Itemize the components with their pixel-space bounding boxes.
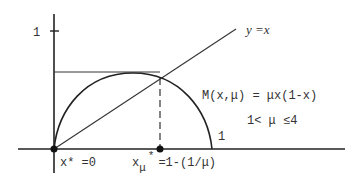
fixed-point-zero-label: x* =0: [60, 156, 96, 170]
map-curve: [54, 73, 212, 149]
diagonal-label: y =x: [244, 22, 270, 37]
logistic-map-diagram: 1 y =x 1 M(x,μ) = μx(1-x) 1< μ ≤4 x* =0 …: [0, 0, 358, 190]
fixed-point-mu-dot: [157, 146, 164, 153]
fixed-point-mu-base: x: [132, 156, 139, 170]
y-tick-label: 1: [33, 26, 40, 40]
fixed-point-mu-superscript: *: [148, 150, 155, 162]
map-formula: M(x,μ) = μx(1-x): [202, 89, 317, 103]
parameter-range: 1< μ ≤4: [247, 114, 297, 128]
fixed-point-mu-value: =1-(1/μ): [158, 156, 216, 170]
fixed-point-zero-dot: [51, 146, 58, 153]
fixed-point-mu-subscript: μ: [139, 162, 146, 174]
fixed-point-mu-label: xμ*=1-(1/μ): [132, 150, 216, 174]
curve-end-label: 1: [218, 130, 225, 144]
